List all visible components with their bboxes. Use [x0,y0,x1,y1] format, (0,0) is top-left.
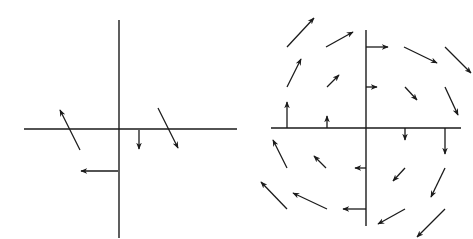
vector-arrow-icon [393,168,405,181]
vector-field-figure [0,0,473,239]
vector-arrow-icon [405,87,417,100]
vector-arrow-icon [314,156,326,168]
vector-arrow-icon [431,168,445,197]
vector-arrow-icon [445,47,471,73]
vector-arrow-icon [326,32,353,47]
vector-arrow-icon [287,59,301,87]
vector-arrow-icon [60,110,80,150]
vector-arrow-icon [417,209,445,237]
vector-arrow-icon [293,193,327,209]
vector-arrow-icon [287,18,314,47]
vector-arrow-icon [445,87,458,115]
vector-arrow-icon [158,108,178,148]
vector-arrow-icon [378,209,405,224]
vector-arrow-icon [261,182,287,209]
vector-arrow-icon [404,47,437,63]
right-vector-field [261,18,471,237]
vector-arrow-icon [327,75,339,87]
vector-arrow-icon [273,140,287,168]
left-vector-field [24,20,237,238]
